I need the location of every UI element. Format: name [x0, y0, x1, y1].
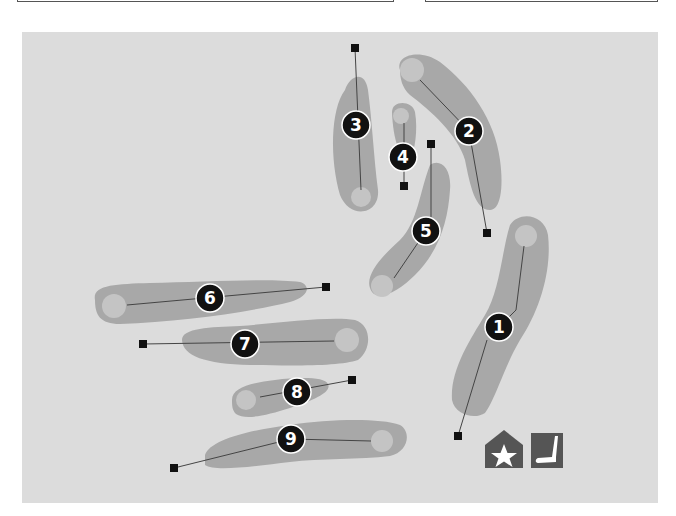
green — [515, 225, 537, 247]
putter-icon[interactable] — [531, 433, 563, 468]
green — [335, 328, 359, 352]
green — [102, 294, 126, 318]
hole-marker-9[interactable]: 9 — [277, 425, 305, 453]
green — [371, 275, 393, 297]
hole-number-label: 3 — [350, 115, 362, 135]
hole-number-label: 7 — [239, 334, 251, 354]
hole-marker-8[interactable]: 8 — [283, 378, 311, 406]
course-map: 1 2 3 4 5 6 7 8 9 — [0, 0, 676, 516]
tee-marker — [170, 464, 178, 472]
hole-2[interactable] — [399, 54, 501, 237]
green — [400, 58, 424, 82]
hole-number-label: 9 — [285, 429, 297, 449]
tee-marker — [483, 229, 491, 237]
tee-marker — [139, 340, 147, 348]
hole-number-label: 2 — [463, 121, 475, 141]
hole-marker-2[interactable]: 2 — [455, 117, 483, 145]
hole-marker-3[interactable]: 3 — [342, 111, 370, 139]
tee-marker — [351, 44, 359, 52]
tee-marker — [427, 140, 435, 148]
hole-marker-4[interactable]: 4 — [389, 143, 417, 171]
star-clubhouse-icon[interactable] — [485, 430, 523, 468]
hole-marker-7[interactable]: 7 — [231, 330, 259, 358]
green — [236, 390, 256, 410]
hole-number-label: 5 — [420, 221, 432, 241]
tee-marker — [322, 283, 330, 291]
hole-number-label: 8 — [291, 382, 303, 402]
hole-marker-5[interactable]: 5 — [412, 217, 440, 245]
green — [393, 108, 409, 124]
hole-number-label: 1 — [493, 317, 505, 337]
tee-marker — [348, 376, 356, 384]
green — [371, 430, 393, 452]
tee-marker — [454, 432, 462, 440]
tee-marker — [400, 182, 408, 190]
hole-marker-1[interactable]: 1 — [485, 313, 513, 341]
hole-number-label: 4 — [397, 147, 409, 167]
hole-number-label: 6 — [204, 288, 216, 308]
hole-marker-6[interactable]: 6 — [196, 284, 224, 312]
